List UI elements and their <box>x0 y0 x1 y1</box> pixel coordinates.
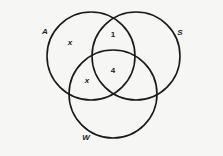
set-label-w: W <box>82 134 90 142</box>
region-a-s-value: 1 <box>111 31 115 39</box>
venn-circles <box>0 0 223 156</box>
set-label-s: S <box>177 29 182 37</box>
region-a-only-value: x <box>68 39 72 47</box>
region-a-s-w-value: 4 <box>111 67 115 75</box>
set-label-a: A <box>42 28 48 36</box>
region-a-w-value: x <box>85 77 89 85</box>
venn-diagram: A S W x 1 4 x <box>0 0 223 156</box>
